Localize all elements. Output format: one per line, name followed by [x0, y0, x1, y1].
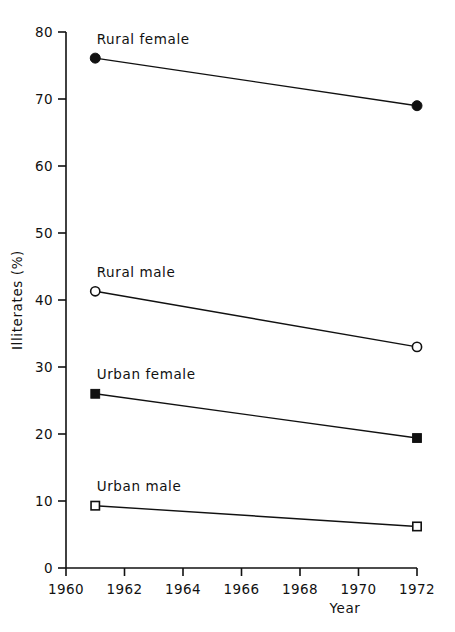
series-marker-urban-female: [91, 389, 100, 398]
series-marker-rural-female: [90, 53, 100, 63]
y-tick-label: 40: [35, 292, 53, 308]
y-tick-label: 60: [35, 158, 53, 174]
y-tick-label: 30: [35, 359, 53, 375]
illiterates-line-chart: 01020304050607080 1960196219641966196819…: [0, 0, 455, 632]
series-label-urban-male: Urban male: [97, 478, 182, 494]
series-label-rural-female: Rural female: [97, 31, 190, 47]
x-tick-label: 1966: [224, 581, 260, 597]
x-tick-label: 1964: [165, 581, 201, 597]
series-label-urban-female: Urban female: [97, 366, 196, 382]
x-tick-label: 1962: [107, 581, 143, 597]
chart-background: [0, 0, 455, 632]
y-tick-label: 10: [35, 493, 53, 509]
y-tick-label: 0: [44, 560, 53, 576]
series-marker-urban-male: [413, 522, 421, 530]
x-tick-label: 1968: [282, 581, 318, 597]
series-marker-urban-female: [413, 434, 422, 443]
x-tick-label: 1972: [399, 581, 435, 597]
y-tick-label: 50: [35, 225, 53, 241]
y-tick-label: 20: [35, 426, 53, 442]
x-tick-label: 1970: [341, 581, 377, 597]
x-axis-title: Year: [329, 600, 361, 616]
y-tick-label: 80: [35, 24, 53, 40]
series-marker-rural-male: [412, 342, 421, 351]
y-tick-label: 70: [35, 91, 53, 107]
series-label-rural-male: Rural male: [97, 264, 176, 280]
chart-figure: 01020304050607080 1960196219641966196819…: [0, 0, 455, 632]
y-axis-title: Illiterates (%): [9, 250, 25, 350]
x-tick-label: 1960: [48, 581, 84, 597]
series-marker-rural-male: [91, 287, 100, 296]
y-axis-tick-labels: 01020304050607080: [35, 24, 53, 576]
series-marker-rural-female: [412, 101, 422, 111]
series-marker-urban-male: [91, 501, 99, 509]
